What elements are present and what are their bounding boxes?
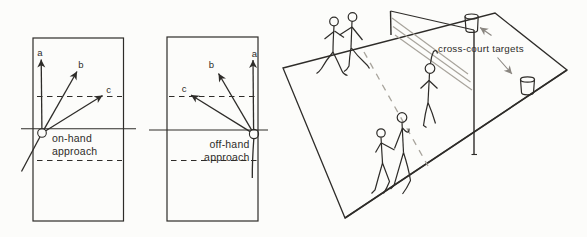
shot-arrow-a [253, 60, 254, 129]
contact-point-marker [38, 129, 47, 138]
player-arms [376, 143, 395, 153]
near-court-players-pair [372, 113, 411, 194]
net-post-far [391, 11, 392, 35]
shot-arrow-c [46, 96, 103, 131]
target-pointer-arrow-far [480, 28, 492, 36]
caption-line-2: approach [52, 145, 97, 157]
arrow-label-a: a [252, 48, 258, 59]
player-legs [372, 163, 390, 194]
caption-line-1: on-hand [52, 132, 92, 144]
player-head [330, 17, 339, 26]
player-legs [391, 153, 411, 195]
walking-players-pair [317, 13, 370, 76]
bucket-rim [521, 77, 535, 82]
caption-line-1: off-hand [210, 138, 250, 150]
player-body [333, 26, 334, 52]
player-arms [395, 128, 410, 149]
net-mesh-line [393, 27, 471, 83]
shot-arrow-b [44, 72, 77, 130]
arrow-label-a: a [37, 47, 43, 58]
approach-path-line [252, 139, 254, 178]
player-head [377, 129, 385, 137]
on-hand-approach-diagram: a b c on-hand approach [21, 38, 136, 221]
player-legs [424, 103, 436, 128]
player-head [348, 13, 357, 22]
off-hand-approach-diagram: a b c off-hand approach [149, 37, 268, 221]
caption-line-2: approach [204, 151, 249, 163]
arrow-label-c: c [106, 84, 111, 95]
arrow-label-b: b [78, 59, 83, 70]
centre-dashed-line [364, 52, 428, 166]
cross-court-targets-scene: cross-court targets [283, 11, 567, 218]
player-body [402, 123, 404, 153]
shot-arrow-a [41, 60, 42, 129]
figure-canvas: a b c on-hand approach a b c off-hand ap… [0, 0, 587, 237]
scene-caption: cross-court targets [438, 43, 524, 54]
player-body [428, 74, 430, 103]
overhead-hitting-player [421, 51, 438, 128]
target-pointer-arrow-near [498, 58, 513, 75]
arrow-label-b: b [209, 59, 214, 70]
diagram-illustration: a b c on-hand approach a b c off-hand ap… [0, 0, 587, 237]
player-arms [325, 31, 345, 39]
arrow-label-c: c [182, 83, 187, 94]
player-body [381, 138, 383, 164]
net [391, 11, 478, 155]
net-top-cable [391, 11, 475, 30]
bucket-rim [465, 14, 478, 19]
player-head [425, 64, 435, 74]
player-body [351, 22, 352, 48]
contact-point-marker [249, 129, 258, 138]
approach-path-line [22, 137, 40, 172]
